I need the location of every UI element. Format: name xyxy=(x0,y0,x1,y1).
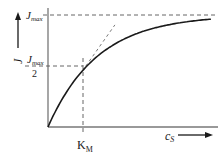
x-arrowhead-icon xyxy=(205,132,213,138)
jhalf-label: Jmax xyxy=(27,53,44,67)
y-arrowhead-icon xyxy=(15,12,21,20)
km-label: KM xyxy=(77,138,93,154)
y-axis-label: J xyxy=(11,58,25,64)
jmax-label: Jmax xyxy=(26,9,43,23)
saturation-curve-diagram: J Jmax Jmax 2 KM cS xyxy=(0,0,222,163)
saturation-curve xyxy=(48,19,211,127)
x-axis-label: cS xyxy=(165,129,174,144)
jhalf-denominator: 2 xyxy=(32,68,37,79)
